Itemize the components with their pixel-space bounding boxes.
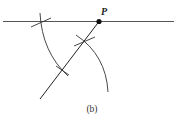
figure-caption: (b) bbox=[86, 104, 97, 115]
geometry-construction-diagram: P (b) bbox=[0, 0, 192, 121]
point-P bbox=[96, 19, 101, 24]
arc-left bbox=[40, 13, 68, 76]
point-label: P bbox=[101, 6, 108, 17]
tick-mark-lower-cross bbox=[56, 66, 69, 75]
tick-mark-upper-cross bbox=[74, 37, 95, 46]
